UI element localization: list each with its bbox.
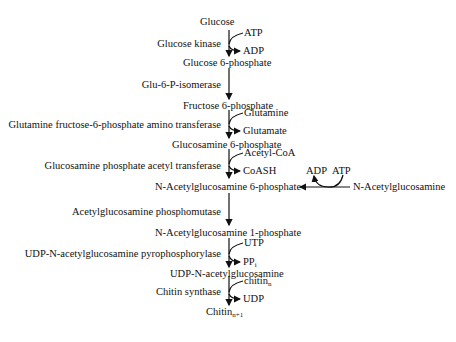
cofactor-atp-side: ATP [332, 165, 351, 177]
enzyme-chitin-synthase: Chitin synthase [156, 286, 221, 298]
compound-n-acetylglucosamine-6-phosphate: N-Acetylglucosamine 6-phosphate [155, 181, 301, 193]
enzyme-glucose-kinase: Glucose kinase [157, 38, 221, 50]
enzyme-glu-6-p-isomerase: Glu-6-P-isomerase [142, 79, 221, 91]
cofactor-coash: CoASH [243, 165, 276, 177]
cofactor-glutamate: Glutamate [243, 125, 287, 137]
cofactor-chitin-n: chitinn [244, 275, 271, 287]
cofactor-adp-side: ADP [306, 165, 327, 177]
cofactor-utp: UTP [244, 237, 264, 249]
enzyme-glucosamine-phosphate-acetyl-transferase: Glucosamine phosphate acetyl transferase [45, 160, 221, 172]
cofactor-atp: ATP [244, 27, 263, 39]
compound-n-acetylglucosamine: N-Acetylglucosamine [353, 181, 445, 193]
enzyme-udp-nag-pyrophosphorylase: UDP-N-acetylglucosamine pyrophosphorylas… [25, 248, 221, 260]
enzyme-acetylglucosamine-phosphomutase: Acetylglucosamine phosphomutase [72, 206, 221, 218]
cofactor-glutamine: Glutamine [244, 107, 288, 119]
cofactor-adp: ADP [243, 45, 264, 57]
compound-chitin-n-plus-1: Chitinn+1 [206, 306, 243, 318]
cofactor-acetyl-coa: Acetyl-CoA [244, 147, 295, 159]
compound-glucose-6-phosphate: Glucose 6-phosphate [183, 57, 271, 69]
cofactor-udp: UDP [243, 293, 264, 305]
compound-n-acetylglucosamine-1-phosphate: N-Acetylglucosamine 1-phosphate [155, 227, 301, 239]
compound-glucose: Glucose [200, 16, 234, 28]
enzyme-glutamine-f6p-amino-transferase: Glutamine fructose-6-phosphate amino tra… [8, 119, 221, 131]
cofactor-ppi: PPi [243, 256, 257, 268]
